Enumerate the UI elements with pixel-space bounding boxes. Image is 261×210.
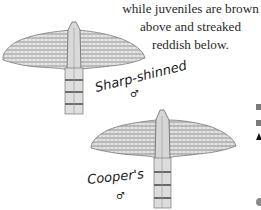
male-symbol-icon: ♂ bbox=[116, 190, 125, 201]
male-symbol-icon: ♂ bbox=[130, 88, 139, 99]
gray-square-icon bbox=[256, 104, 261, 110]
caption-line-1: while juveniles are brown bbox=[120, 0, 261, 18]
gray-square-icon bbox=[256, 120, 261, 126]
sharp-shinned-hawk-icon bbox=[2, 20, 147, 118]
coopers-hawk-icon bbox=[88, 108, 238, 210]
gray-circle-icon bbox=[256, 198, 261, 206]
black-triangle-icon bbox=[256, 133, 261, 140]
